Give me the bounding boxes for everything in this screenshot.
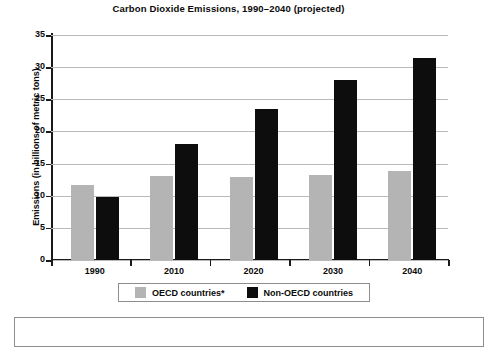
x-tick-label: 2020 [224, 266, 284, 276]
x-tick-mark [210, 260, 212, 266]
bar-non-oecd [255, 109, 278, 260]
gridline [51, 260, 448, 261]
y-tick-label: 25 [14, 94, 45, 103]
x-tick-label: 2030 [303, 266, 363, 276]
bar-oecd [150, 176, 173, 260]
bar-group [309, 35, 357, 260]
chart-title: Carbon Dioxide Emissions, 1990–2040 (pro… [0, 3, 457, 14]
x-tick-mark [448, 260, 450, 266]
bar-oecd [309, 175, 332, 261]
bar-group [150, 35, 198, 260]
y-tick-label: 0 [14, 255, 45, 264]
bar-non-oecd [96, 197, 119, 260]
y-tick-mark [46, 164, 51, 166]
y-tick-label: 5 [14, 223, 45, 232]
chart-legend: OECD countries* Non-OECD countries [118, 283, 370, 302]
bar-group [388, 35, 436, 260]
y-tick-mark [46, 196, 51, 198]
y-tick-label: 10 [14, 191, 45, 200]
bar-group [71, 35, 119, 260]
legend-item-oecd: OECD countries* [135, 287, 225, 298]
x-tick-mark [51, 260, 53, 266]
y-tick-mark [46, 260, 51, 262]
y-tick-label: 20 [14, 126, 45, 135]
x-tick-label: 2040 [382, 266, 442, 276]
x-tick-mark [369, 260, 371, 266]
x-tick-mark [289, 260, 291, 266]
bar-oecd [388, 171, 411, 260]
footnote-box [14, 317, 484, 347]
legend-label-non-oecd: Non-OECD countries [264, 288, 354, 298]
legend-label-oecd: OECD countries* [152, 288, 225, 298]
y-tick-mark [46, 228, 51, 230]
y-tick-mark [46, 99, 51, 101]
y-tick-label: 35 [14, 30, 45, 39]
bar-non-oecd [175, 144, 198, 260]
y-tick-mark [46, 35, 51, 37]
y-tick-label: 15 [14, 159, 45, 168]
bar-non-oecd [334, 80, 357, 260]
bar-oecd [71, 185, 94, 260]
x-tick-label: 2010 [144, 266, 204, 276]
gray-swatch-icon [135, 287, 146, 298]
bar-group [230, 35, 278, 260]
black-swatch-icon [247, 287, 258, 298]
legend-item-non-oecd: Non-OECD countries [247, 287, 354, 298]
plot-area [51, 35, 448, 260]
bar-oecd [230, 177, 253, 260]
y-tick-mark [46, 131, 51, 133]
y-tick-label: 30 [14, 62, 45, 71]
y-tick-mark [46, 67, 51, 69]
x-tick-label: 1990 [65, 266, 125, 276]
x-tick-mark [130, 260, 132, 266]
y-axis-label: Emissions (in billions of metric tons) [31, 47, 41, 247]
bar-non-oecd [413, 58, 436, 261]
